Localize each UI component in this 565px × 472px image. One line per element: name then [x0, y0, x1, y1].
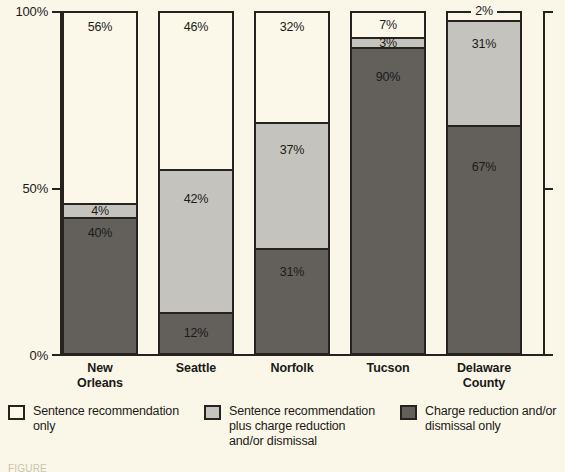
- segment-charge-reduction-only[interactable]: 12%: [160, 312, 232, 353]
- bar-tucson[interactable]: 7% 3% 90%: [350, 11, 426, 355]
- segment-value-label: 67%: [472, 161, 496, 174]
- y-tick-100-left: [52, 11, 61, 13]
- segment-value-label: 37%: [280, 144, 304, 157]
- legend-label-line1: Sentence recommendation: [33, 404, 179, 418]
- segment-value-label: 90%: [376, 71, 400, 84]
- y-axis-right-spine: [543, 11, 545, 355]
- segment-charge-reduction-only[interactable]: 67%: [448, 125, 520, 353]
- y-tick-0-left: [52, 354, 61, 356]
- stacked-bar-chart: 100% 50% 0% 56% 4% 40% 46% 42% 12%: [0, 0, 565, 360]
- figure-caption: FIGURE: [8, 463, 47, 472]
- segment-value-label: 46%: [184, 21, 208, 34]
- x-tick-label-line1: Norfolk: [237, 361, 347, 376]
- legend-item-label: Charge reduction and/or dismissal only: [425, 404, 556, 434]
- legend-label-line2: only: [33, 419, 55, 433]
- y-tick-label-50: 50%: [2, 181, 48, 196]
- segment-value-label: 31%: [472, 38, 496, 51]
- legend-swatch-icon: [8, 405, 25, 420]
- legend-swatch-icon: [400, 405, 417, 420]
- legend-item-label: Sentence recommendation plus charge redu…: [229, 404, 375, 448]
- y-tick-50-right: [544, 188, 553, 190]
- segment-sentence-recommendation-only[interactable]: 46%: [160, 13, 232, 169]
- segment-value-label: 4%: [91, 205, 109, 218]
- x-tick-label-tucson: Tucson: [333, 361, 443, 376]
- x-tick-label-line1: Delaware: [429, 361, 539, 376]
- x-tick-label-line1: Tucson: [333, 361, 443, 376]
- bar-seattle[interactable]: 46% 42% 12%: [158, 11, 234, 355]
- segment-sentence-rec-plus-charge-reduction[interactable]: 3%: [352, 37, 424, 47]
- segment-sentence-rec-plus-charge-reduction[interactable]: 42%: [160, 169, 232, 312]
- legend-item-sentence-rec-plus-charge-reduction[interactable]: Sentence recommendation plus charge redu…: [204, 404, 400, 448]
- x-tick-label-line2: County: [429, 376, 539, 391]
- segment-sentence-recommendation-only[interactable]: 7%: [352, 13, 424, 37]
- legend-label-line1: Sentence recommendation: [229, 404, 375, 418]
- bar-new-orleans[interactable]: 56% 4% 40%: [62, 11, 138, 355]
- bar-norfolk[interactable]: 32% 37% 31%: [254, 11, 330, 355]
- segment-value-label: 56%: [88, 21, 112, 34]
- segment-sentence-rec-plus-charge-reduction[interactable]: 31%: [448, 20, 520, 125]
- segment-charge-reduction-only[interactable]: 90%: [352, 47, 424, 353]
- legend-swatch-icon: [204, 405, 221, 420]
- y-tick-100-right: [544, 11, 553, 13]
- legend-label-line3: and/or dismissal: [229, 434, 317, 448]
- segment-value-label: 12%: [184, 327, 208, 340]
- segment-value-label: 2%: [471, 5, 497, 18]
- x-tick-label-line2: Orleans: [45, 376, 155, 391]
- segment-value-label: 32%: [280, 21, 304, 34]
- segment-value-label: 42%: [184, 193, 208, 206]
- segment-sentence-recommendation-only[interactable]: 32%: [256, 13, 328, 122]
- legend-item-label: Sentence recommendation only: [33, 404, 179, 434]
- x-tick-label-new-orleans: New Orleans: [45, 361, 155, 391]
- segment-charge-reduction-only[interactable]: 31%: [256, 248, 328, 353]
- x-tick-label-line1: Seattle: [141, 361, 251, 376]
- legend-item-charge-reduction-only[interactable]: Charge reduction and/or dismissal only: [400, 404, 560, 448]
- segment-sentence-recommendation-only[interactable]: 56%: [64, 13, 136, 203]
- x-tick-label-seattle: Seattle: [141, 361, 251, 376]
- y-tick-label-0: 0%: [2, 348, 48, 363]
- x-tick-label-line1: New: [45, 361, 155, 376]
- legend-label-line2: plus charge reduction: [229, 419, 345, 433]
- x-tick-label-delaware-county: Delaware County: [429, 361, 539, 391]
- y-tick-50-left: [52, 188, 61, 190]
- legend-item-sentence-recommendation-only[interactable]: Sentence recommendation only: [8, 404, 204, 448]
- x-tick-label-norfolk: Norfolk: [237, 361, 347, 376]
- legend-label-line1: Charge reduction and/or: [425, 404, 556, 418]
- y-tick-label-100: 100%: [2, 4, 48, 19]
- chart-legend: Sentence recommendation only Sentence re…: [8, 404, 560, 448]
- legend-label-line2: dismissal only: [425, 419, 501, 433]
- segment-charge-reduction-only[interactable]: 40%: [64, 217, 136, 353]
- segment-value-label: 31%: [280, 266, 304, 279]
- bar-delaware-county[interactable]: 2% 31% 67%: [446, 11, 522, 355]
- segment-sentence-recommendation-only[interactable]: 2%: [448, 13, 520, 20]
- segment-value-label: 7%: [379, 19, 397, 32]
- segment-value-label: 40%: [88, 227, 112, 240]
- segment-sentence-rec-plus-charge-reduction[interactable]: 37%: [256, 122, 328, 248]
- y-tick-0-right: [544, 354, 553, 356]
- segment-sentence-rec-plus-charge-reduction[interactable]: 4%: [64, 203, 136, 217]
